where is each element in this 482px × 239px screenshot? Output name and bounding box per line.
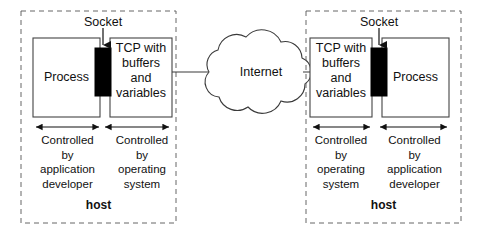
right-span-app-line-2: by <box>375 148 454 163</box>
left-tcp-label: TCP with buffers and variables <box>110 41 172 101</box>
left-tcp-line-2: buffers <box>110 56 172 71</box>
right-span-app-line-4: developer <box>375 177 454 192</box>
left-host-label: host <box>21 198 176 212</box>
left-span-app-label: Controlled by application developer <box>28 133 107 191</box>
right-tcp-line-2: buffers <box>310 56 372 71</box>
left-process-label: Process <box>33 70 100 84</box>
left-span-app-line-3: application <box>28 162 107 177</box>
left-span-os-label: Controlled by operating system <box>107 133 177 191</box>
right-span-os-label: Controlled by operating system <box>306 133 376 191</box>
right-tcp-label: TCP with buffers and variables <box>310 41 372 101</box>
right-host-label: host <box>306 198 461 212</box>
socket-architecture-diagram: Socket Process TCP with buffers and vari… <box>0 0 482 239</box>
right-tcp-line-3: and <box>310 71 372 86</box>
right-span-os-line-2: by <box>306 148 376 163</box>
right-tcp-line-4: variables <box>310 86 372 101</box>
left-tcp-line-1: TCP with <box>110 41 172 56</box>
left-span-app-line-1: Controlled <box>28 133 107 148</box>
left-span-os-line-4: system <box>107 177 177 192</box>
left-tcp-line-4: variables <box>110 86 172 101</box>
right-process-label: Process <box>382 70 449 84</box>
right-tcp-line-1: TCP with <box>310 41 372 56</box>
left-span-app-line-2: by <box>28 148 107 163</box>
left-span-os-line-1: Controlled <box>107 133 177 148</box>
left-tcp-line-3: and <box>110 71 172 86</box>
right-span-os-line-3: operating <box>306 162 376 177</box>
right-span-app-line-3: application <box>375 162 454 177</box>
left-span-os-line-2: by <box>107 148 177 163</box>
right-socket-label: Socket <box>339 15 419 29</box>
internet-cloud-label: Internet <box>216 65 306 79</box>
left-span-os-line-3: operating <box>107 162 177 177</box>
right-span-app-label: Controlled by application developer <box>375 133 454 191</box>
left-span-app-line-4: developer <box>28 177 107 192</box>
right-span-os-line-1: Controlled <box>306 133 376 148</box>
left-socket-label: Socket <box>63 15 143 29</box>
right-span-app-line-1: Controlled <box>375 133 454 148</box>
right-span-os-line-4: system <box>306 177 376 192</box>
